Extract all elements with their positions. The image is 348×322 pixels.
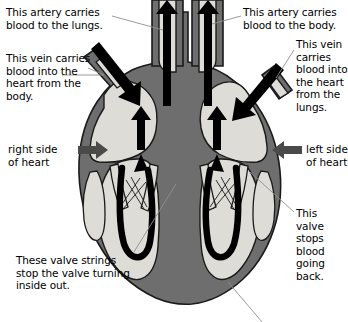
label-left-side-of-heart: left side of heart <box>306 143 348 168</box>
right-atrial-appendage <box>83 171 105 240</box>
label-artery-to-body: This artery carries blood to the body. <box>243 6 347 31</box>
leader-vein-from-lungs <box>276 50 294 78</box>
heart-diagram-figure: This artery carries blood to the lungs. … <box>0 0 348 322</box>
leader-bottom-cutoff <box>228 282 262 322</box>
label-right-side-of-heart: right side of heart <box>8 143 74 168</box>
label-vein-from-lungs: This vein carries blood into the heart f… <box>296 38 348 114</box>
label-valve-stops-blood: This valve stops blood going back. <box>296 207 348 283</box>
label-artery-to-lungs: This artery carries blood to the lungs. <box>6 6 110 31</box>
label-valve-strings: These valve strings stop the valve turni… <box>16 254 140 292</box>
label-vein-from-body: This vein carries blood into the heart f… <box>6 52 102 102</box>
left-atrial-appendage <box>253 171 275 240</box>
